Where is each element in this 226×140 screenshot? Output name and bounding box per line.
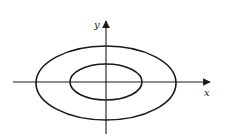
ellipse-diagram: x y [0, 0, 226, 140]
y-axis-label: y [93, 19, 100, 30]
x-axis-label: x [204, 87, 210, 98]
